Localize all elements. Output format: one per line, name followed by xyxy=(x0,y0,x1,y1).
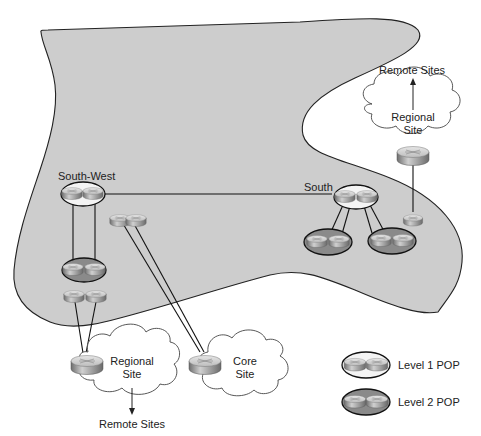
south-router-regional[interactable] xyxy=(403,215,422,226)
legend-level1-pop-label: Level 1 POP xyxy=(398,359,460,371)
southwest-level2-pop[interactable] xyxy=(62,258,106,282)
southwest-level1-pop[interactable] xyxy=(61,182,105,206)
legend-level1-pop-icon xyxy=(342,352,390,378)
legend-level2-pop-icon xyxy=(342,389,390,415)
regional-site-bottom-label-line1: Regional xyxy=(110,355,153,367)
core-site-router[interactable] xyxy=(189,356,221,375)
remote-sites-label-bottom: Remote Sites xyxy=(99,418,165,430)
core-site-label-line1: Core xyxy=(233,355,257,367)
remote-sites-label-top: Remote Sites xyxy=(379,64,445,76)
region-label-south-west: South-West xyxy=(58,170,115,182)
regional-site-top-label-line1: Regional xyxy=(391,111,434,123)
south-level2-pop-left[interactable] xyxy=(304,229,352,255)
regional-site-top-router[interactable] xyxy=(397,147,429,166)
regional-site-top-label-line2: Site xyxy=(404,124,423,136)
legend-level2-pop-label: Level 2 POP xyxy=(398,396,460,408)
regional-site-bottom-router[interactable] xyxy=(71,356,103,375)
core-site-label-line2: Site xyxy=(236,368,255,380)
southwest-router-pair-core[interactable] xyxy=(110,215,146,227)
south-level1-pop[interactable] xyxy=(334,185,378,209)
south-level2-pop-right[interactable] xyxy=(368,228,416,254)
region-label-south: South xyxy=(304,181,333,193)
regional-site-bottom-label-line2: Site xyxy=(123,368,142,380)
